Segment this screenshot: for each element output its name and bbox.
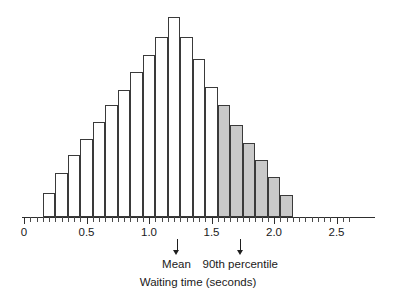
- x-axis-minor-tick: [187, 217, 188, 222]
- x-axis-minor-tick: [193, 217, 194, 222]
- x-axis-minor-tick: [205, 217, 206, 222]
- x-axis-minor-tick: [118, 217, 119, 222]
- x-axis-minor-tick: [130, 217, 131, 222]
- x-axis-minor-tick: [99, 217, 100, 222]
- x-axis-tick-label: 2.5: [317, 227, 357, 239]
- x-axis-tick-label: 1.5: [192, 227, 232, 239]
- x-axis-minor-tick: [249, 217, 250, 222]
- x-axis-tick-label: 1.0: [129, 227, 169, 239]
- histogram-bar: [143, 55, 156, 217]
- histogram-bar: [93, 122, 106, 217]
- x-axis-minor-tick: [37, 217, 38, 222]
- x-axis-tick-label: 0.5: [67, 227, 107, 239]
- histogram-bar: [55, 173, 68, 217]
- x-axis-minor-tick: [137, 217, 138, 222]
- x-axis-minor-tick: [93, 217, 94, 222]
- histogram-bar: [268, 177, 281, 217]
- histogram-bar: [218, 105, 231, 217]
- x-axis-major-tick: [149, 217, 150, 224]
- x-axis-major-tick: [337, 217, 338, 224]
- x-axis-minor-tick: [124, 217, 125, 222]
- x-axis-minor-tick: [68, 217, 69, 222]
- x-axis-minor-tick: [299, 217, 300, 222]
- x-axis-minor-tick: [30, 217, 31, 222]
- x-axis-minor-tick: [268, 217, 269, 222]
- histogram-bar: [205, 87, 218, 217]
- mean-marker-arrowhead-icon: [173, 250, 179, 255]
- x-axis-minor-tick: [224, 217, 225, 222]
- x-axis-minor-tick: [324, 217, 325, 222]
- x-axis-minor-tick: [280, 217, 281, 222]
- x-axis-minor-tick: [349, 217, 350, 222]
- x-axis-minor-tick: [180, 217, 181, 222]
- histogram-bar: [280, 195, 293, 217]
- x-axis-minor-tick: [168, 217, 169, 222]
- x-axis-minor-tick: [62, 217, 63, 222]
- x-axis-minor-tick: [112, 217, 113, 222]
- x-axis-minor-tick: [293, 217, 294, 222]
- histogram-bar: [193, 59, 206, 217]
- x-axis-minor-tick: [218, 217, 219, 222]
- x-axis-major-tick: [212, 217, 213, 224]
- x-axis-minor-tick: [305, 217, 306, 222]
- ninetieth-percentile-marker-label: 90th percentile: [180, 259, 300, 271]
- x-axis-minor-tick: [55, 217, 56, 222]
- x-axis-minor-tick: [287, 217, 288, 222]
- x-axis-minor-tick: [143, 217, 144, 222]
- histogram-plot-area: 00.51.01.52.02.5Mean90th percentileWaiti…: [0, 0, 396, 296]
- x-axis-minor-tick: [262, 217, 263, 222]
- x-axis-minor-tick: [43, 217, 44, 222]
- x-axis-minor-tick: [312, 217, 313, 222]
- x-axis-minor-tick: [330, 217, 331, 222]
- x-axis-minor-tick: [162, 217, 163, 222]
- x-axis-minor-tick: [105, 217, 106, 222]
- x-axis-title: Waiting time (seconds): [0, 277, 396, 289]
- x-axis-minor-tick: [243, 217, 244, 222]
- histogram-bar: [80, 139, 93, 217]
- x-axis-minor-tick: [230, 217, 231, 222]
- x-axis-tick-label: 2.0: [254, 227, 294, 239]
- x-axis-tick-label: 0: [4, 227, 44, 239]
- x-axis-minor-tick: [80, 217, 81, 222]
- x-axis-minor-tick: [174, 217, 175, 222]
- histogram-bar: [168, 17, 181, 217]
- histogram-bar: [43, 193, 56, 217]
- x-axis-major-tick: [274, 217, 275, 224]
- histogram-bar: [155, 37, 168, 217]
- histogram-bar: [68, 155, 81, 217]
- x-axis-minor-tick: [155, 217, 156, 222]
- histogram-bar: [243, 143, 256, 217]
- histogram-bar: [230, 125, 243, 217]
- x-axis-major-tick: [87, 217, 88, 224]
- histogram-bar: [255, 160, 268, 217]
- x-axis-minor-tick: [49, 217, 50, 222]
- x-axis-minor-tick: [318, 217, 319, 222]
- ninetieth-percentile-marker-arrowhead-icon: [237, 250, 243, 255]
- histogram-figure: 00.51.01.52.02.5Mean90th percentileWaiti…: [0, 0, 396, 296]
- histogram-bar: [130, 72, 143, 217]
- histogram-bar: [180, 37, 193, 217]
- x-axis-minor-tick: [255, 217, 256, 222]
- histogram-bar: [105, 105, 118, 217]
- x-axis-minor-tick: [199, 217, 200, 222]
- x-axis-minor-tick: [74, 217, 75, 222]
- x-axis-minor-tick: [343, 217, 344, 222]
- x-axis-minor-tick: [237, 217, 238, 222]
- histogram-bar: [118, 90, 131, 217]
- x-axis-major-tick: [24, 217, 25, 224]
